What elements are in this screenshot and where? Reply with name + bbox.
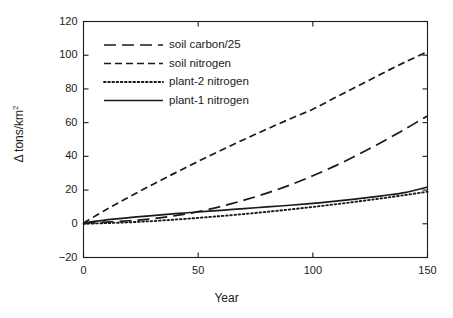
y-tick-label: 120 bbox=[59, 16, 77, 27]
legend-label-2: plant-2 nitrogen bbox=[169, 76, 249, 88]
data-series bbox=[84, 52, 428, 224]
legend-line-samples bbox=[104, 45, 163, 101]
y-axis-title: Δ tons/km2 bbox=[13, 84, 25, 184]
legend-label-0: soil carbon/25 bbox=[169, 39, 241, 51]
series-line-3 bbox=[84, 187, 428, 223]
y-tick-label: 80 bbox=[65, 83, 77, 94]
x-axis-title: Year bbox=[0, 292, 453, 304]
chart-figure: −20020406080100120 050100150 Δ tons/km2 … bbox=[0, 0, 453, 318]
legend-label-3: plant-1 nitrogen bbox=[169, 95, 249, 107]
y-tick-label: −20 bbox=[59, 252, 78, 263]
x-tick-label: 150 bbox=[398, 265, 453, 276]
series-line-0 bbox=[84, 116, 428, 223]
y-tick-label: 0 bbox=[71, 218, 77, 229]
y-tick-label: 60 bbox=[65, 117, 77, 128]
legend-label-1: soil nitrogen bbox=[169, 58, 231, 70]
y-tick-label: 40 bbox=[65, 150, 77, 161]
y-tick-label: 20 bbox=[65, 184, 77, 195]
x-tick-label: 0 bbox=[54, 265, 114, 276]
y-tick-label: 100 bbox=[59, 49, 77, 60]
x-tick-label: 100 bbox=[283, 265, 343, 276]
x-tick-label: 50 bbox=[168, 265, 228, 276]
